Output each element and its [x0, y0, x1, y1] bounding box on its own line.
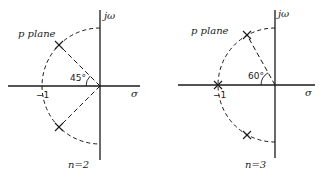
caption: n=2	[68, 159, 89, 170]
angle-label: 45°	[70, 73, 86, 83]
diagram-n3: p plane jω σ −1 60° n=3	[178, 8, 315, 170]
diagram-n2: p plane jω σ −1 45° n=2	[8, 10, 140, 170]
real-axis-label: σ	[305, 87, 313, 98]
real-axis-label: σ	[131, 88, 139, 99]
pole-marker-lower-icon	[55, 123, 63, 131]
pole-marker-upper-icon	[243, 31, 251, 39]
imaginary-axis-label: jω	[102, 10, 115, 21]
pole-diagrams-canvas: p plane jω σ −1 45° n=2 p plane jω σ −1 …	[0, 0, 321, 175]
minus-one-label: −1	[36, 90, 49, 100]
plane-label: p plane	[191, 25, 229, 36]
imaginary-axis-label: jω	[276, 8, 289, 19]
radial-line-lower	[59, 86, 100, 127]
angle-arc	[86, 76, 90, 86]
plane-label: p plane	[18, 28, 56, 39]
angle-label: 60°	[248, 71, 264, 81]
pole-marker-upper-icon	[55, 41, 63, 49]
caption: n=3	[245, 159, 266, 170]
pole-marker-lower-icon	[243, 131, 251, 139]
minus-one-label: −1	[213, 90, 226, 100]
